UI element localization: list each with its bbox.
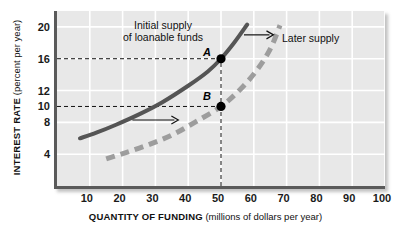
x-tick-80: 80 (301, 192, 331, 204)
x-tick-20: 20 (105, 192, 135, 204)
supply-curves (80, 25, 280, 159)
y-tick-12: 12 (28, 86, 50, 96)
initial-supply-annotation: Initial supply of loanable funds (108, 19, 218, 43)
y-axis-title-unit: (percent per year) (11, 20, 22, 98)
point-a (216, 54, 225, 63)
point-b (216, 102, 225, 111)
x-tick-50: 50 (203, 192, 233, 204)
x-tick-40: 40 (170, 192, 200, 204)
y-tick-8: 8 (28, 117, 50, 127)
chart-figure: 4810121620 102030405060708090100 INTERES… (0, 0, 411, 233)
x-axis-title-bold: QUANTITY OF FUNDING (89, 211, 203, 222)
y-axis-title: INTEREST RATE (percent per year) (11, 8, 22, 188)
x-tick-90: 90 (334, 192, 364, 204)
x-axis-title-unit: (millions of dollars per year) (203, 211, 322, 222)
y-tick-16: 16 (28, 54, 50, 64)
x-tick-10: 10 (72, 192, 102, 204)
later-supply-annotation: Later supply (282, 32, 339, 44)
initial-supply-line1: Initial supply (108, 19, 218, 31)
x-axis-ticks: 102030405060708090100 (0, 192, 411, 206)
x-tick-70: 70 (269, 192, 299, 204)
y-tick-4: 4 (28, 149, 50, 159)
y-tick-10: 10 (28, 101, 50, 111)
x-tick-60: 60 (236, 192, 266, 204)
initial-supply-line2: of loanable funds (108, 31, 218, 43)
point-a-label: A (203, 46, 211, 58)
x-tick-100: 100 (367, 192, 397, 204)
point-b-label: B (203, 90, 211, 102)
x-axis-title: QUANTITY OF FUNDING (millions of dollars… (0, 211, 411, 222)
x-tick-30: 30 (137, 192, 167, 204)
y-tick-20: 20 (28, 22, 50, 32)
y-axis-title-bold: INTEREST RATE (11, 98, 22, 175)
